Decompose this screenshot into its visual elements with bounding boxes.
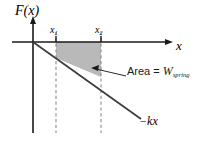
area-annotation: Area = Wspring — [127, 65, 190, 78]
spring-work-figure: F(x) x x1 x2 −kx Area = Wspring — [0, 0, 200, 145]
tick-label-x1: x1 — [50, 25, 58, 36]
tick-label-x1-subscript: 1 — [54, 29, 57, 36]
y-axis-label: F(x) — [15, 4, 39, 18]
shaded-area-region — [56, 42, 101, 77]
area-annotation-subscript: spring — [173, 71, 190, 78]
tick-label-x2-subscript: 2 — [99, 29, 102, 36]
curve-label-minus-kx: −kx — [139, 115, 158, 127]
x-axis-label: x — [176, 39, 182, 52]
tick-label-x2: x2 — [95, 25, 103, 36]
area-annotation-symbol: W — [163, 64, 173, 78]
area-annotation-prefix: Area = — [127, 65, 163, 77]
x-axis-arrowhead — [165, 39, 173, 45]
